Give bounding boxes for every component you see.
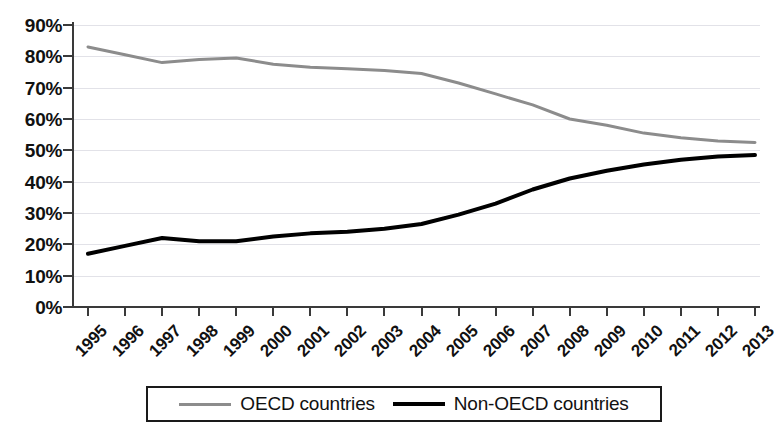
legend-item-non-oecd: Non-OECD countries xyxy=(393,393,629,415)
y-axis-labels: 0%10%20%30%40%50%60%70%80%90% xyxy=(0,0,66,320)
legend-swatch-oecd-icon xyxy=(179,403,231,406)
y-tick-label: 0% xyxy=(35,298,62,317)
y-tick-label: 80% xyxy=(25,47,62,66)
y-tick-label: 10% xyxy=(25,266,62,285)
plot-area xyxy=(72,0,760,320)
y-tick-label: 50% xyxy=(25,141,62,160)
x-tick-label: 2007 xyxy=(517,322,555,360)
x-tick-label: 2000 xyxy=(257,322,295,360)
chart-legend: OECD countries Non-OECD countries xyxy=(146,386,662,422)
plot-wrapper: 0%10%20%30%40%50%60%70%80%90% 1995199619… xyxy=(0,0,780,320)
y-tick-label: 90% xyxy=(25,16,62,35)
y-tick-label: 30% xyxy=(25,204,62,223)
y-tick-label: 40% xyxy=(25,172,62,191)
legend-swatch-non-oecd-icon xyxy=(393,402,445,406)
x-tick-label: 2012 xyxy=(702,322,740,360)
x-tick-label: 1998 xyxy=(183,322,221,360)
x-tick-label: 2001 xyxy=(294,322,332,360)
x-tick-label: 2013 xyxy=(739,322,777,360)
x-tick-label: 2006 xyxy=(480,322,518,360)
x-tick-label: 2005 xyxy=(443,322,481,360)
x-tick-label: 1997 xyxy=(146,322,184,360)
legend-label-non-oecd: Non-OECD countries xyxy=(454,393,629,415)
series-line xyxy=(88,155,755,254)
x-tick-label: 2009 xyxy=(591,322,629,360)
y-tick-label: 70% xyxy=(25,78,62,97)
x-tick-label: 1996 xyxy=(109,322,147,360)
legend-label-oecd: OECD countries xyxy=(240,393,374,415)
line-chart: 0%10%20%30%40%50%60%70%80%90% 1995199619… xyxy=(0,0,780,432)
x-tick-label: 1995 xyxy=(72,322,110,360)
x-tick-label: 2008 xyxy=(554,322,592,360)
x-tick-label: 2010 xyxy=(628,322,666,360)
series-lines xyxy=(72,0,760,320)
series-line xyxy=(88,47,755,143)
x-tick-label: 2011 xyxy=(666,322,703,359)
x-tick-label: 2002 xyxy=(331,322,369,360)
x-tick-label: 1999 xyxy=(220,322,258,360)
x-tick-label: 2004 xyxy=(406,322,444,360)
x-tick-label: 2003 xyxy=(369,322,407,360)
y-tick-label: 20% xyxy=(25,235,62,254)
y-tick-label: 60% xyxy=(25,110,62,129)
legend-item-oecd: OECD countries xyxy=(179,393,374,415)
x-axis-labels: 1995199619971998199920002001200220032004… xyxy=(72,318,760,380)
